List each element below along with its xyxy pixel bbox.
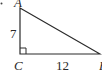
vertex-label-c: C <box>14 58 23 72</box>
right-angle-marker <box>20 48 26 54</box>
triangle-diagram: A C B 7 12 <box>0 0 102 72</box>
vertex-label-a: A <box>13 0 22 10</box>
side-label-cb: 12 <box>56 58 69 72</box>
bullet-dot <box>1 3 3 5</box>
vertex-label-b: B <box>99 58 102 72</box>
triangle-shape <box>20 8 100 54</box>
side-label-ac: 7 <box>10 26 17 41</box>
